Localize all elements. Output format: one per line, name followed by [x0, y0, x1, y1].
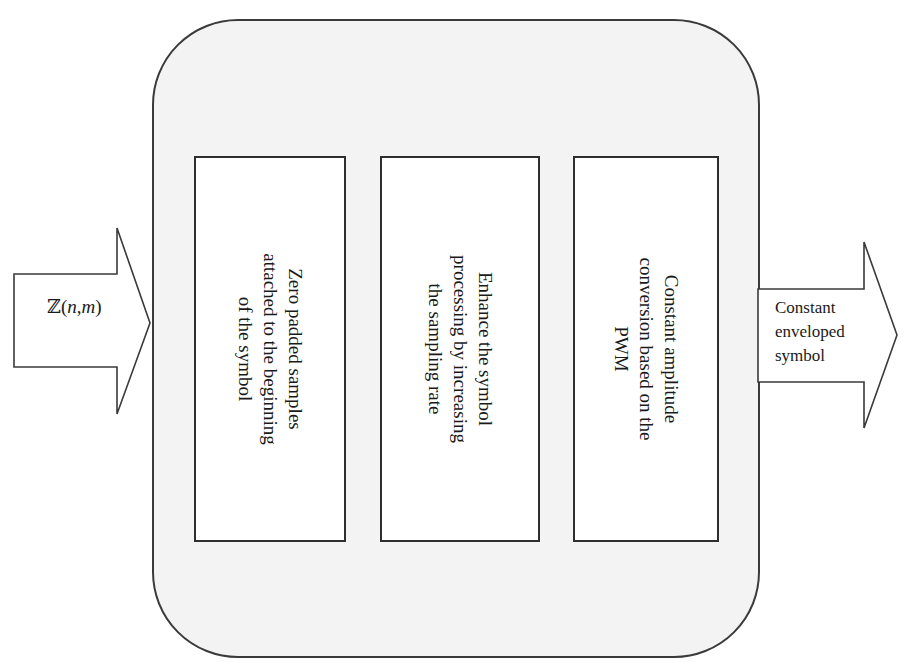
stage-pwm-conversion: Constant amplitude conversion based on t… — [573, 156, 719, 542]
output-label: Constant enveloped symbol — [775, 296, 845, 368]
close-paren: ) — [95, 296, 101, 317]
stage-label-line: conversion based on the — [634, 224, 659, 474]
stage-label: Zero padded samples attached to the begi… — [233, 224, 308, 474]
output-label-line: Constant — [775, 296, 845, 320]
input-var-n: n — [67, 296, 77, 317]
input-var-m: m — [81, 296, 95, 317]
output-label-line: symbol — [775, 344, 845, 368]
stage-zero-padding: Zero padded samples attached to the begi… — [194, 156, 346, 542]
stage-upsampling: Enhance the symbol processing by increas… — [380, 156, 540, 542]
stage-label-line: PWM — [609, 224, 634, 474]
stage-label-line: Enhance the symbol — [473, 224, 498, 474]
stage-label-line: the sampling rate — [423, 224, 448, 474]
output-label-line: enveloped — [775, 320, 845, 344]
stage-label-line: processing by increasing — [448, 224, 473, 474]
stage-label: Constant amplitude conversion based on t… — [609, 224, 684, 474]
stage-label-line: attached to the beginning — [258, 224, 283, 474]
stage-label-line: Constant amplitude — [659, 224, 684, 474]
stage-label: Enhance the symbol processing by increas… — [423, 224, 498, 474]
stage-label-line: of the symbol — [233, 224, 258, 474]
integer-set-symbol: ℤ — [47, 296, 61, 317]
stage-label-line: Zero padded samples — [283, 224, 308, 474]
input-label: ℤ(n,m) — [47, 295, 102, 319]
input-arrow-icon — [14, 228, 150, 414]
